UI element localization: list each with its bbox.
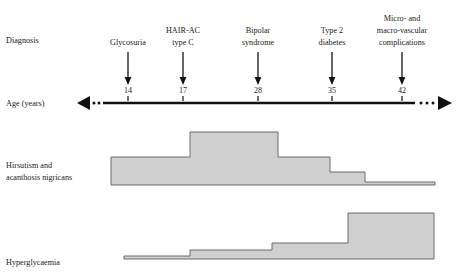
severity-band-hirsutism-and-acanthosis-nigricans [111, 132, 435, 185]
event-arrow-head-28 [255, 77, 262, 85]
age-value-28: 28 [254, 86, 262, 95]
severity-bands [111, 132, 435, 259]
diagnosis-label-17: type C [172, 38, 194, 47]
row-label-hirsutism-line1: Hirsutism and [6, 161, 52, 170]
age-axis-right-arrowhead [438, 96, 452, 110]
row-label-diagnosis: Diagnosis [6, 36, 39, 45]
diagnosis-label-35: diabetes [319, 38, 346, 47]
diagnosis-events: Glycosuria14HAIR-ACtype C17Bipolarsyndro… [110, 14, 427, 101]
age-value-42: 42 [398, 86, 406, 95]
event-arrow-head-17 [180, 77, 187, 85]
diagnosis-label-28: Bipolar [246, 26, 271, 35]
diagnosis-label-35: Type 2 [321, 26, 343, 35]
diagnosis-label-28: syndrome [242, 38, 275, 47]
age-axis-left-arrowhead [77, 96, 90, 110]
diagnosis-label-14: Glycosuria [110, 38, 146, 47]
diagnosis-label-42: complications [379, 38, 425, 47]
age-axis-left-dot-0 [93, 102, 96, 105]
clinical-timeline-figure: Diagnosis Age (years) Hirsutism and acan… [0, 0, 459, 276]
age-value-17: 17 [179, 86, 187, 95]
event-arrow-head-14 [125, 77, 132, 85]
age-value-14: 14 [124, 86, 132, 95]
age-axis-right-dot-1 [426, 102, 429, 105]
age-axis-right-dot-0 [420, 102, 423, 105]
age-axis-right-dot-2 [432, 102, 435, 105]
age-value-35: 35 [328, 86, 336, 95]
severity-band-hyperglycaemia [124, 213, 434, 259]
diagnosis-label-17: HAIR-AC [166, 26, 201, 35]
row-label-hirsutism-line2: acanthosis nigricans [6, 173, 72, 182]
diagnosis-label-42: macro-vascular [377, 26, 428, 35]
age-axis-left-dot-1 [98, 102, 101, 105]
row-label-hyperglycaemia: Hyperglycaemia [6, 258, 60, 267]
event-arrow-head-42 [399, 77, 406, 85]
diagnosis-label-42: Micro- and [384, 14, 421, 23]
age-axis [77, 96, 452, 110]
event-arrow-head-35 [329, 77, 336, 85]
row-label-age: Age (years) [6, 99, 45, 108]
